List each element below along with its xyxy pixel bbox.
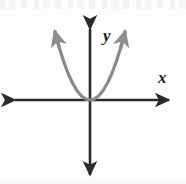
y-axis-label: y [101, 26, 111, 45]
x-axis-label: x [157, 68, 167, 87]
coordinate-plane-svg: y x [0, 0, 186, 184]
parabola-right-arrow [121, 32, 125, 48]
parabola-left-arrow [55, 32, 59, 48]
graph-figure: y x [0, 0, 186, 184]
